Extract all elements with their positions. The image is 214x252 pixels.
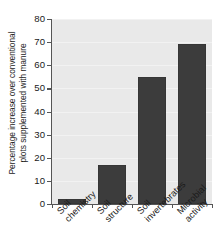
y-axis-title-line-2: plots supplemented with manure (18, 43, 29, 162)
bar-slot (52, 19, 92, 204)
y-axis-title: Percentage increase over conventional pl… (0, 0, 34, 210)
bar-series (52, 19, 212, 204)
bar-slot (92, 19, 132, 204)
y-axis-title-line-1: Percentage increase over conventional (7, 32, 18, 175)
x-axis-labels: SoilchemistrySoilstructureSoilinvertebra… (52, 205, 212, 252)
y-axis-line (51, 19, 52, 204)
plot-area (52, 19, 212, 204)
x-tick-mark (212, 204, 213, 208)
bar-chart: Percentage increase over conventional pl… (0, 0, 214, 252)
